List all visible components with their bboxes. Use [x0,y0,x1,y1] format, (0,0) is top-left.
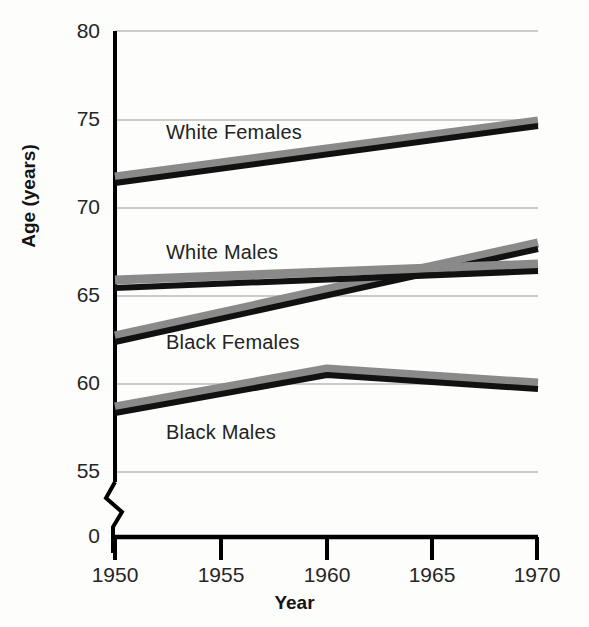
x-axis [113,537,538,560]
series-black-males [115,369,538,413]
life-expectancy-line-chart: 80 75 70 65 60 55 0 1950 1955 1960 1965 … [0,0,589,627]
ytick-label-65: 65 [52,283,100,307]
xtick-label-1955: 1955 [166,563,276,587]
series-label-white-males: White Males [166,241,278,264]
series-white-males [115,264,538,288]
ytick-label-70: 70 [52,195,100,219]
xtick-label-1950: 1950 [60,563,170,587]
ytick-label-60: 60 [52,371,100,395]
xtick-label-1960: 1960 [272,563,382,587]
y-axis [106,31,122,553]
ytick-label-75: 75 [52,107,100,131]
xtick-label-1965: 1965 [377,563,487,587]
series-label-black-males: Black Males [166,421,276,444]
series-label-black-females: Black Females [166,331,300,354]
series-label-white-females: White Females [166,121,302,144]
x-axis-title: Year [0,592,589,614]
xtick-label-1970: 1970 [482,563,589,587]
ytick-label-80: 80 [52,19,100,43]
ytick-label-0: 0 [52,524,100,548]
y-axis-title: Age (years) [18,111,40,281]
ytick-label-55: 55 [52,459,100,483]
